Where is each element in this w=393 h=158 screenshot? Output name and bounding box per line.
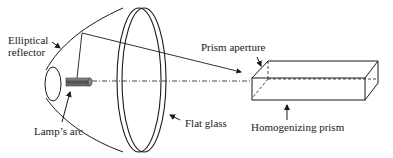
label-prism-aperture: Prism aperture (201, 41, 265, 53)
label-lamps-arc: Lamp’s arc (34, 125, 83, 137)
lamp-pointer-arrow (62, 92, 70, 122)
label-elliptical-reflector-2: reflector (8, 46, 45, 58)
label-elliptical-reflector-1: Elliptical (8, 34, 48, 46)
reflector-back-opening (45, 67, 61, 101)
flat-glass (117, 8, 166, 152)
lamp-arc (66, 78, 92, 86)
flat-glass-pointer-arrow (170, 115, 180, 120)
reflector-pointer-arrow (52, 42, 60, 48)
light-ray (77, 33, 241, 78)
aperture-pointer-arrow (257, 57, 261, 66)
homogenizing-prism (252, 61, 378, 100)
label-flat-glass: Flat glass (185, 117, 227, 129)
label-homogenizing-prism: Homogenizing prism (251, 121, 344, 133)
